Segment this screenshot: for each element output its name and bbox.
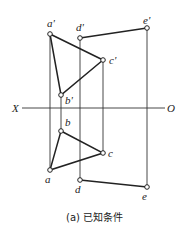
label-a-prime: a' bbox=[47, 17, 56, 29]
figure-edges bbox=[50, 28, 147, 187]
projection-lines bbox=[50, 28, 147, 187]
label-e: e bbox=[142, 190, 147, 202]
label-c-prime: c' bbox=[109, 54, 117, 66]
label-b: b bbox=[65, 116, 71, 128]
label-b-prime: b' bbox=[65, 94, 74, 106]
label-e-prime: e' bbox=[143, 14, 151, 26]
axis-o-label: O bbox=[167, 102, 175, 114]
label-c: c bbox=[108, 147, 113, 159]
projection-diagram: X O a' d' e' c' b' b c a d e (a) 已知条件 bbox=[0, 0, 185, 233]
caption: (a) 已知条件 bbox=[66, 211, 123, 223]
label-d-prime: d' bbox=[76, 21, 85, 33]
label-d: d bbox=[75, 183, 81, 195]
axis-x-label: X bbox=[11, 102, 20, 114]
point-markers bbox=[48, 26, 150, 190]
label-a: a bbox=[45, 173, 51, 185]
